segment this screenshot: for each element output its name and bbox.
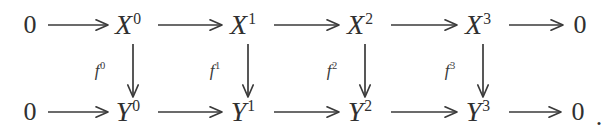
node-top-zero-left: 0: [24, 12, 37, 38]
node-base: Y: [466, 96, 482, 127]
node-superscript: 0: [133, 10, 141, 27]
horizontal-arrow: [391, 107, 457, 117]
node-superscript: 3: [482, 97, 490, 114]
map-label-map-f0: f0: [95, 62, 106, 79]
node-top-x3: X3: [465, 11, 491, 39]
node-bottom-y2: Y2: [348, 98, 372, 126]
horizontal-arrow: [48, 107, 108, 117]
node-base: X: [115, 9, 132, 40]
node-base: Y: [348, 96, 364, 127]
commutative-diagram: 0X0X1X2X300Y0Y1Y2Y30f0f1f2f3 .: [0, 0, 615, 133]
node-superscript: 2: [364, 97, 372, 114]
arrow-layer: [0, 0, 615, 133]
trailing-period: .: [596, 104, 603, 130]
horizontal-arrow: [158, 20, 222, 30]
node-superscript: 1: [247, 97, 255, 114]
vertical-arrow: [243, 44, 253, 97]
map-label-map-f3: f3: [445, 62, 456, 79]
node-base: Y: [231, 96, 247, 127]
map-label-map-f1: f1: [210, 62, 221, 79]
node-bottom-zero-left: 0: [24, 99, 37, 125]
map-label-superscript: 0: [100, 60, 105, 71]
horizontal-arrow: [274, 20, 339, 30]
vertical-arrow: [360, 44, 370, 97]
horizontal-arrow: [509, 107, 561, 117]
node-top-x0: X0: [115, 11, 141, 39]
map-label-superscript: 2: [332, 60, 337, 71]
node-bottom-zero-right: 0: [572, 99, 585, 125]
map-label-superscript: 3: [450, 60, 455, 71]
vertical-arrow: [478, 44, 488, 97]
node-base: 0: [24, 97, 37, 126]
horizontal-arrow: [158, 107, 222, 117]
vertical-arrow: [128, 44, 138, 97]
node-base: 0: [572, 97, 585, 126]
node-superscript: 3: [483, 10, 491, 27]
node-base: Y: [116, 96, 132, 127]
horizontal-arrow: [274, 107, 339, 117]
node-superscript: 0: [132, 97, 140, 114]
node-bottom-y3: Y3: [466, 98, 490, 126]
node-top-zero-right: 0: [574, 12, 587, 38]
node-base: X: [230, 9, 247, 40]
node-base: 0: [24, 10, 37, 39]
node-base: X: [465, 9, 482, 40]
map-label-map-f2: f2: [327, 62, 338, 79]
node-bottom-y1: Y1: [231, 98, 255, 126]
node-top-x2: X2: [347, 11, 373, 39]
node-superscript: 1: [248, 10, 256, 27]
horizontal-arrow: [48, 20, 108, 30]
horizontal-arrow: [391, 20, 457, 30]
node-bottom-y0: Y0: [116, 98, 140, 126]
map-label-superscript: 1: [215, 60, 220, 71]
node-superscript: 2: [365, 10, 373, 27]
horizontal-arrow: [509, 20, 563, 30]
node-base: X: [347, 9, 364, 40]
node-top-x1: X1: [230, 11, 256, 39]
node-base: 0: [574, 10, 587, 39]
